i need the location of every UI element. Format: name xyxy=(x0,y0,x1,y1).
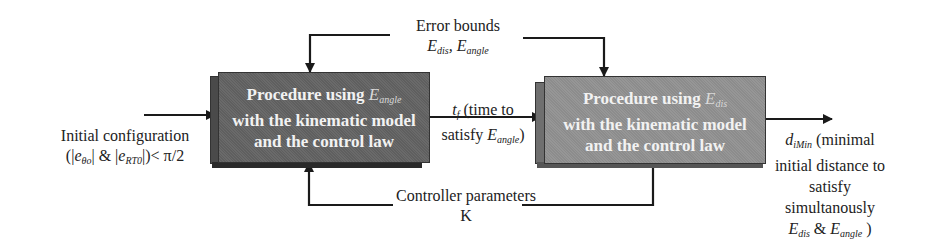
block-line1: Procedure using xyxy=(583,89,705,108)
controller-symbol: K xyxy=(396,206,536,226)
input-line1: Initial configuration xyxy=(40,126,210,146)
output-line2: initial distance to xyxy=(765,155,895,176)
block-line3: and the control law xyxy=(544,135,766,156)
error-bounds-arrow-2 xyxy=(523,38,604,76)
block-variable: Eangle xyxy=(369,85,402,104)
output-line5: Edis & Eangle ) xyxy=(765,218,895,244)
block-line1: Procedure using xyxy=(247,85,369,104)
error-bounds-label: Error bounds Edis, Eangle xyxy=(400,16,516,61)
dis-procedure-block: Procedure using Edis with the kinematic … xyxy=(535,76,767,169)
tf-line2: satisfy Eangle) xyxy=(428,125,538,150)
intermediate-tf-label: tf (time to satisfy Eangle) xyxy=(428,100,538,150)
controller-title: Controller parameters xyxy=(396,186,536,206)
error-bounds-vars: Edis, Eangle xyxy=(400,36,516,61)
output-line1: diMin (minimal xyxy=(765,129,895,155)
output-line4: simultanously xyxy=(765,197,895,218)
controller-arrow-1 xyxy=(309,163,393,205)
error-bounds-arrow-1 xyxy=(310,35,390,72)
output-line3: satisfy xyxy=(765,176,895,197)
block-label: Procedure using Eangle with the kinemati… xyxy=(218,84,430,152)
block-line3: and the control law xyxy=(218,131,430,152)
error-bounds-title: Error bounds xyxy=(400,16,516,36)
block-line2: with the kinematic model xyxy=(544,114,766,135)
initial-configuration-label: Initial configuration (|eθo| & |eRT0|)< … xyxy=(40,126,210,171)
output-dimin-label: diMin (minimal initial distance to satis… xyxy=(765,129,895,244)
input-condition: (|eθo| & |eRT0|)< π/2 xyxy=(40,146,210,171)
block-variable: Edis xyxy=(705,89,727,108)
block-label: Procedure using Edis with the kinematic … xyxy=(544,88,766,156)
block-line2: with the kinematic model xyxy=(218,110,430,131)
angle-procedure-block: Procedure using Eangle with the kinemati… xyxy=(210,72,430,168)
controller-parameters-label: Controller parameters K xyxy=(396,186,536,226)
tf-line1: tf (time to xyxy=(428,100,538,125)
